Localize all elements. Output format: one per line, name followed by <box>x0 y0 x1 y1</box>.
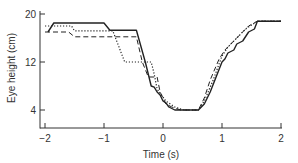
data-series <box>45 21 281 110</box>
x-tick-label: −2 <box>39 133 51 144</box>
series-line-solid <box>48 21 281 110</box>
y-tick-label: 20 <box>25 9 37 20</box>
x-tick-label: 0 <box>160 133 166 144</box>
x-axis-title: Time (s) <box>143 149 179 160</box>
y-tick-label: 4 <box>30 105 36 116</box>
x-tick-label: −1 <box>98 133 110 144</box>
series-line-dotted <box>45 21 281 110</box>
x-tick-label: 1 <box>219 133 225 144</box>
x-tick-label: 2 <box>278 133 284 144</box>
y-ticks: 41220 <box>25 9 45 116</box>
x-ticks: −2−1012 <box>39 123 284 144</box>
y-axis-title: Eye height (cm) <box>6 33 17 103</box>
chart-canvas: 41220 −2−1012 Time (s) Eye height (cm) <box>0 0 298 163</box>
series-line-dashed <box>45 21 281 110</box>
y-tick-label: 12 <box>25 57 37 68</box>
